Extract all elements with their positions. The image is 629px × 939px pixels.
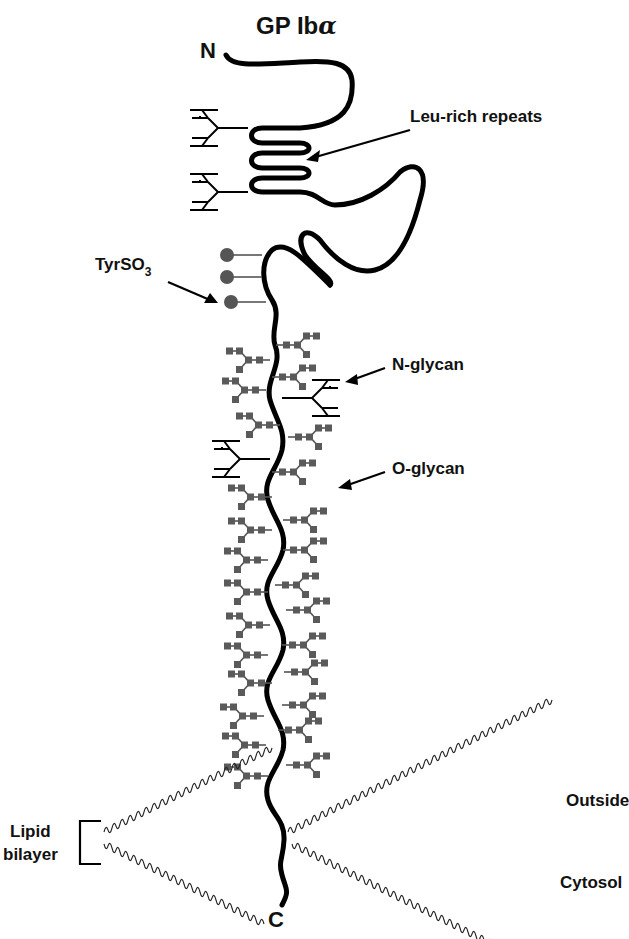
outside-label: Outside xyxy=(566,791,629,810)
n-glycan-label: N-glycan xyxy=(392,355,464,374)
figure-title: GP Ibα xyxy=(256,11,337,40)
lipid-label-1: Lipid xyxy=(10,822,51,841)
n-glycan-lrr-top xyxy=(190,110,248,146)
lipid-label-2: bilayer xyxy=(3,845,58,864)
cytosol-label: Cytosol xyxy=(560,873,622,892)
tyrso3-arrow xyxy=(168,282,210,300)
o-glycan-label: O-glycan xyxy=(392,459,465,478)
tyrso3-label: TyrSO3 xyxy=(95,255,152,279)
polypeptide-chain xyxy=(226,55,423,285)
lipid-bracket xyxy=(80,821,101,864)
gp-ib-alpha-diagram: GP Ibα N Leu-rich repeats TyrSO3 N-glyca… xyxy=(0,0,629,939)
n-glycan-stalk-left xyxy=(212,441,270,477)
o-glycan-arrow xyxy=(345,472,385,486)
leu-rich-arrow xyxy=(312,130,410,158)
lipid-bilayer xyxy=(104,699,552,939)
c-terminus-label: C xyxy=(268,907,284,932)
n-glycan-lrr-bottom xyxy=(190,174,248,210)
n-terminus-label: N xyxy=(200,38,216,63)
leu-rich-label: Leu-rich repeats xyxy=(410,107,542,126)
n-glycan-stalk-right xyxy=(282,380,340,416)
sulfated-tyrosines xyxy=(220,248,266,309)
